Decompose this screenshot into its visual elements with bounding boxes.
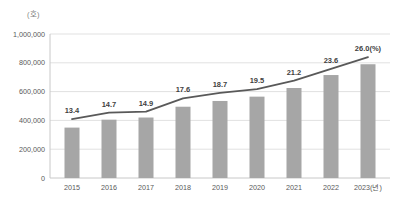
y-axis-tick-label: 600,000 [19, 87, 45, 96]
bar-2021 [287, 88, 302, 178]
x-axis-tick-label: 2020 [249, 183, 265, 192]
percent-point-label: 17.6 [176, 85, 191, 94]
x-axis-tick-label: 2022 [323, 183, 339, 192]
x-axis-tick-label: 2023(년) [354, 183, 382, 192]
y-axis-tick-label: 1,000,000 [13, 30, 45, 39]
bar-2022 [324, 75, 339, 178]
bar-2018 [176, 107, 191, 178]
percent-point-label: 14.9 [139, 99, 154, 108]
chart-svg: 0200,000400,000600,000800,0001,000,00020… [0, 0, 398, 205]
bar-2023(년) [361, 64, 376, 178]
y-axis-tick-label: 400,000 [19, 116, 45, 125]
bar-2020 [250, 97, 265, 178]
bar-2017 [139, 118, 154, 178]
x-axis-tick-label: 2016 [101, 183, 117, 192]
bar-line-chart: (호) 0200,000400,000600,000800,0001,000,0… [0, 0, 398, 205]
x-axis-tick-label: 2017 [138, 183, 154, 192]
bar-2015 [65, 128, 80, 178]
bar-2019 [213, 101, 228, 178]
y-axis-tick-label: 0 [41, 174, 45, 183]
bar-2016 [102, 120, 117, 178]
x-axis-tick-label: 2018 [175, 183, 191, 192]
percent-point-label: 26.0(%) [355, 44, 382, 53]
y-axis-tick-label: 200,000 [19, 145, 45, 154]
percent-point-label: 14.7 [102, 100, 117, 109]
percent-point-label: 18.7 [213, 80, 228, 89]
x-axis-tick-label: 2021 [286, 183, 302, 192]
percent-point-label: 23.6 [324, 56, 339, 65]
percent-point-label: 21.2 [287, 68, 302, 77]
percent-point-label: 13.4 [65, 106, 80, 115]
x-axis-tick-label: 2015 [64, 183, 80, 192]
percent-point-label: 19.5 [250, 76, 265, 85]
x-axis-tick-label: 2019 [212, 183, 228, 192]
y-axis-tick-label: 800,000 [19, 58, 45, 67]
